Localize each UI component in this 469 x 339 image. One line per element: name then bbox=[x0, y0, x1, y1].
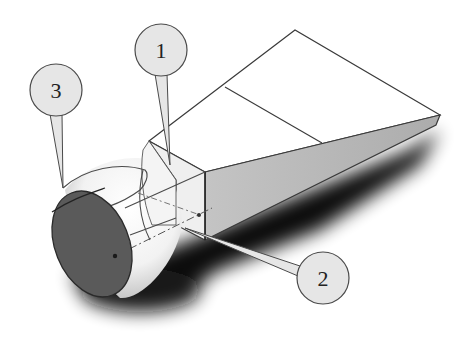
cad-diagram: 1 3 2 bbox=[0, 0, 469, 339]
callout-3: 3 bbox=[30, 64, 82, 188]
callout-1-label: 1 bbox=[156, 38, 167, 63]
callout-3-label: 3 bbox=[51, 78, 62, 103]
circle-center-point bbox=[113, 254, 117, 258]
callout-3-leader bbox=[50, 114, 63, 188]
axis-endpoint-marker bbox=[197, 213, 201, 217]
callout-2-label: 2 bbox=[318, 266, 329, 291]
